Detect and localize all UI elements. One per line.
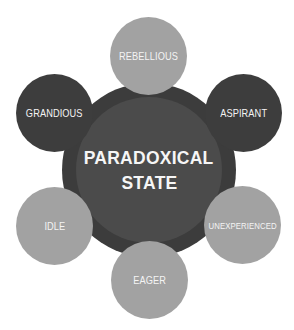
node-label: REBELLIOUS bbox=[119, 50, 178, 62]
paradoxical-state-diagram: PARADOXICAL STATE REBELLIOUS ASPIRANT UN… bbox=[0, 0, 294, 330]
node-grandious: GRANDIOUS bbox=[16, 74, 93, 152]
node-label: IDLE bbox=[44, 220, 65, 232]
node-rebellious: REBELLIOUS bbox=[110, 17, 187, 95]
node-aspirant: ASPIRANT bbox=[205, 74, 282, 152]
node-label: UNEXPERIENCED bbox=[208, 220, 276, 231]
node-label: EAGER bbox=[133, 274, 166, 286]
node-label: GRANDIOUS bbox=[26, 107, 83, 119]
node-eager: EAGER bbox=[111, 241, 188, 319]
node-label: ASPIRANT bbox=[220, 107, 267, 119]
node-idle: IDLE bbox=[16, 187, 93, 265]
node-unexperienced: UNEXPERIENCED bbox=[204, 186, 281, 264]
center-title-line1: PARADOXICAL bbox=[84, 145, 214, 170]
center-hub: PARADOXICAL STATE bbox=[76, 97, 222, 243]
center-title-line2: STATE bbox=[121, 170, 177, 195]
